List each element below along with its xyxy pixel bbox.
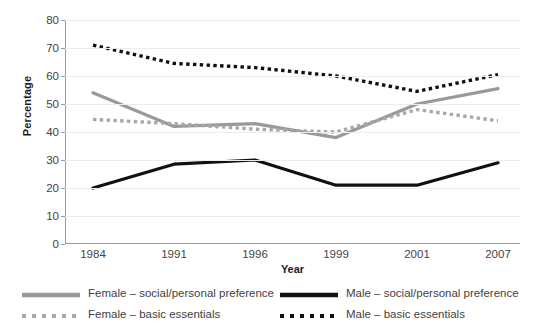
y-axis-tick-mark xyxy=(61,244,65,245)
y-axis-tick-mark xyxy=(61,160,65,161)
grid-line xyxy=(65,104,520,105)
legend-swatch xyxy=(22,308,80,320)
y-axis-tick-label: 50 xyxy=(25,98,59,110)
y-axis-tick-label: 0 xyxy=(25,238,59,250)
legend-swatch xyxy=(280,287,338,299)
y-axis-tick-mark xyxy=(61,188,65,189)
grid-line xyxy=(65,20,520,21)
grid-line xyxy=(65,216,520,217)
y-axis-tick-mark xyxy=(61,20,65,21)
chart-legend: Female – social/personal preferenceMale … xyxy=(22,282,534,324)
legend-label: Male – social/personal preference xyxy=(346,287,519,299)
series-line xyxy=(93,110,498,132)
grid-line xyxy=(65,76,520,77)
x-axis-tick-label: 1991 xyxy=(161,248,187,260)
x-axis-tick-label: 2007 xyxy=(485,248,511,260)
y-axis-tick-mark xyxy=(61,48,65,49)
y-axis-tick-mark xyxy=(61,216,65,217)
y-axis-tick-label: 40 xyxy=(25,126,59,138)
legend-label: Female – social/personal preference xyxy=(88,287,274,299)
series-line xyxy=(93,45,498,91)
x-axis-tick-label: 1984 xyxy=(80,248,106,260)
y-axis-tick-mark xyxy=(61,76,65,77)
x-axis-tick-label: 2001 xyxy=(404,248,430,260)
legend-item: Male – basic essentials xyxy=(280,308,538,320)
x-axis-title: Year xyxy=(65,263,520,275)
legend-item: Male – social/personal preference xyxy=(280,287,538,299)
legend-swatch xyxy=(22,287,80,299)
grid-line xyxy=(65,160,520,161)
y-axis-tick-label: 10 xyxy=(25,210,59,222)
chart-container: Percentage 01020304050607080198419911996… xyxy=(0,0,538,331)
legend-item: Female – social/personal preference xyxy=(22,287,280,299)
grid-line xyxy=(65,188,520,189)
y-axis-tick-label: 20 xyxy=(25,182,59,194)
y-axis-tick-label: 70 xyxy=(25,42,59,54)
plot-area: 0102030405060708019841991199619992001200… xyxy=(65,20,520,244)
legend-item: Female – basic essentials xyxy=(22,308,280,320)
y-axis-tick-label: 80 xyxy=(25,14,59,26)
legend-label: Male – basic essentials xyxy=(346,308,465,320)
y-axis-tick-label: 60 xyxy=(25,70,59,82)
y-axis-tick-label: 30 xyxy=(25,154,59,166)
legend-swatch xyxy=(280,308,338,320)
legend-label: Female – basic essentials xyxy=(88,308,220,320)
y-axis-tick-mark xyxy=(61,132,65,133)
x-axis-tick-label: 1996 xyxy=(242,248,268,260)
grid-line xyxy=(65,48,520,49)
x-axis-tick-label: 1999 xyxy=(323,248,349,260)
series-line xyxy=(93,160,498,188)
y-axis-tick-mark xyxy=(61,104,65,105)
grid-line xyxy=(65,132,520,133)
